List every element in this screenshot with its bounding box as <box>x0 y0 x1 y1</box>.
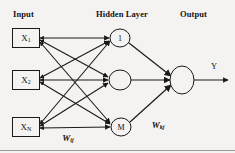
weight-label-kj: Wkj <box>152 120 165 131</box>
hidden-node-2 <box>109 70 131 90</box>
input-label-2: X2 <box>21 75 31 86</box>
hidden-label-m: M <box>117 123 124 132</box>
input-label-1-sub: 1 <box>28 37 31 43</box>
weight-label-ij: Wij <box>62 133 73 144</box>
edge-xn-hm <box>40 127 110 128</box>
weight-label-ij-sub: ij <box>70 137 73 143</box>
input-label-n: XN <box>21 122 32 133</box>
edge-x1-h2 <box>40 40 108 77</box>
input-layer-header: Input <box>13 9 34 19</box>
output-node <box>170 66 194 94</box>
hidden-to-output-edges <box>129 43 171 122</box>
input-label-2-sub: 2 <box>28 79 31 85</box>
neural-network-diagram: Input Hidden Layer Output X1 X2 XN 1 M W… <box>0 0 235 153</box>
edge-h1-out <box>129 43 171 76</box>
edge-xn-h2 <box>40 83 108 126</box>
weight-label-kj-base: W <box>152 120 160 130</box>
input-to-hidden-edges <box>40 38 110 128</box>
weight-label-kj-sub: kj <box>160 124 165 130</box>
input-label-1: X1 <box>21 33 31 44</box>
hidden-node-shapes <box>109 29 131 136</box>
hidden-label-1: 1 <box>118 34 122 43</box>
edge-hm-out <box>130 85 171 122</box>
output-signal-label: Y <box>211 61 217 71</box>
hidden-layer-header: Hidden Layer <box>96 9 148 19</box>
input-label-n-sub: N <box>27 126 31 132</box>
output-layer-header: Output <box>180 9 207 19</box>
weight-label-ij-base: W <box>62 133 70 143</box>
